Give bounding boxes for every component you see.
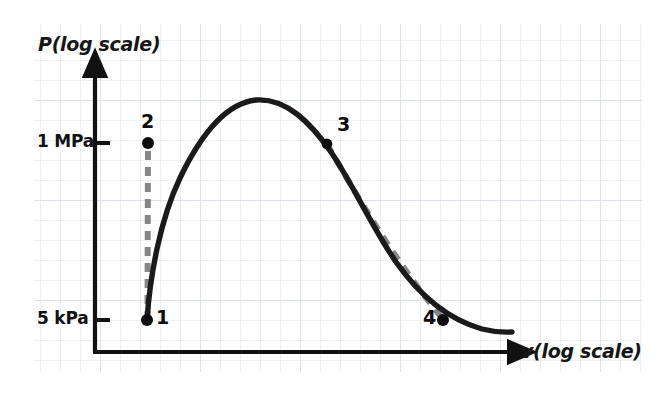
state-point-1	[141, 314, 153, 326]
chart-plot-area	[0, 0, 663, 393]
state-label-1: 1	[156, 306, 169, 328]
state-label-2: 2	[141, 110, 154, 132]
y-axis-label: P(log scale)	[38, 33, 160, 55]
state-label-3: 3	[337, 113, 350, 135]
y-tick-label-5kpa: 5 kPa	[37, 308, 89, 328]
graph-paper-grid	[34, 24, 642, 372]
x-axis-label: v(log scale)	[521, 340, 642, 362]
state-label-4: 4	[423, 306, 436, 328]
y-tick-label-1mpa: 1 MPa	[37, 131, 94, 151]
state-point-2	[142, 137, 154, 149]
chart-canvas: P(log scale) v(log scale) 1 MPa 5 kPa 1 …	[0, 0, 663, 393]
state-point-4	[437, 314, 449, 326]
state-point-3	[322, 139, 333, 150]
